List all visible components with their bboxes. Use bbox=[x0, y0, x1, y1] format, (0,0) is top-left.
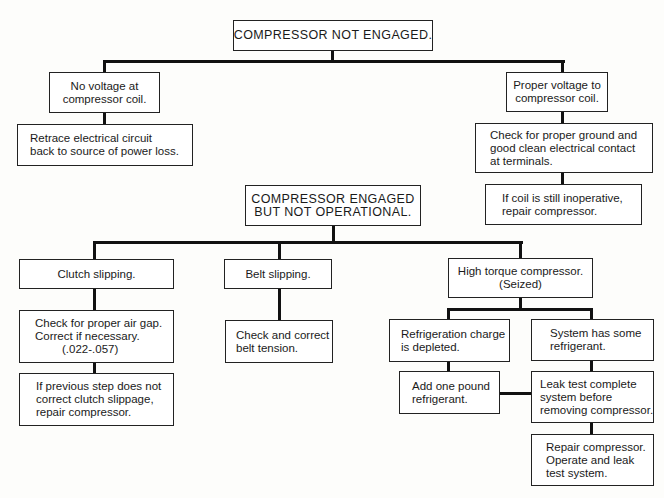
node-label: back to source of power loss. bbox=[30, 145, 192, 158]
node-no-voltage: No voltage at compressor coil. bbox=[49, 72, 160, 113]
node-label: If coil is still inoperative, bbox=[502, 192, 641, 205]
node-label: repair compressor. bbox=[502, 205, 641, 218]
node-label: Check for proper ground and bbox=[490, 129, 652, 142]
node-label: High torque compressor. bbox=[458, 265, 583, 278]
node-label: refrigerant. bbox=[412, 393, 499, 406]
connector bbox=[278, 241, 281, 260]
node-add-refrigerant: Add one pound refrigerant. bbox=[399, 371, 500, 414]
node-label: (Seized) bbox=[499, 278, 542, 291]
node-label: Belt slipping. bbox=[245, 268, 310, 281]
node-label: No voltage at bbox=[71, 80, 139, 93]
connector bbox=[278, 287, 281, 321]
node-label: Clutch slipping. bbox=[58, 268, 136, 281]
node-label: Check for proper air gap. bbox=[35, 317, 173, 330]
connector bbox=[499, 392, 532, 395]
node-proper-voltage: Proper voltage to compressor coil. bbox=[506, 72, 608, 112]
node-label: removing compressor. bbox=[540, 404, 653, 417]
node-label: Leak test complete bbox=[540, 378, 653, 391]
node-label: repair compressor. bbox=[36, 406, 173, 419]
node-label: Operate and leak bbox=[546, 454, 653, 467]
node-check-ground: Check for proper ground and good clean e… bbox=[475, 123, 653, 173]
node-label: BUT NOT OPERATIONAL. bbox=[254, 206, 411, 219]
node-clutch-slipping: Clutch slipping. bbox=[19, 259, 174, 289]
root-compressor-not-engaged: COMPRESSOR NOT ENGAGED. bbox=[233, 20, 433, 51]
node-clutch-repair: If previous step does not correct clutch… bbox=[19, 373, 174, 426]
node-charge-depleted: Refrigeration charge is depleted. bbox=[389, 319, 510, 362]
node-leak-test: Leak test complete system before removin… bbox=[531, 371, 654, 423]
node-label: compressor coil. bbox=[515, 92, 599, 105]
node-retrace-circuit: Retrace electrical circuit back to sourc… bbox=[17, 124, 193, 166]
node-system-has-refrigerant: System has some refrigerant. bbox=[531, 319, 654, 361]
connector bbox=[93, 241, 523, 244]
connector bbox=[93, 287, 96, 311]
node-label: compressor coil. bbox=[63, 93, 147, 106]
node-label: test system. bbox=[546, 467, 653, 480]
node-label: COMPRESSOR NOT ENGAGED. bbox=[234, 29, 433, 42]
node-label: System has some bbox=[550, 327, 653, 340]
node-label: (.022-.057) bbox=[35, 343, 173, 356]
node-label: Add one pound bbox=[412, 380, 499, 393]
node-belt-slipping: Belt slipping. bbox=[224, 259, 332, 289]
node-label: system before bbox=[540, 391, 653, 404]
node-label: Proper voltage to bbox=[513, 79, 601, 92]
connector bbox=[103, 60, 565, 63]
connector bbox=[447, 308, 593, 311]
node-label: Correct if necessary. bbox=[35, 330, 173, 343]
node-label: belt tension. bbox=[236, 342, 332, 355]
node-check-belt-tension: Check and correct belt tension. bbox=[225, 320, 333, 363]
node-label: If previous step does not bbox=[36, 380, 173, 393]
node-label: COMPRESSOR ENGAGED bbox=[251, 193, 414, 206]
node-high-torque-seized: High torque compressor. (Seized) bbox=[448, 258, 593, 298]
node-label: Repair compressor. bbox=[546, 441, 653, 454]
root-compressor-engaged-not-operational: COMPRESSOR ENGAGED BUT NOT OPERATIONAL. bbox=[245, 185, 421, 226]
connector bbox=[93, 241, 96, 260]
node-label: Check and correct bbox=[236, 329, 332, 342]
node-label: correct clutch slippage, bbox=[36, 393, 173, 406]
node-label: refrigerant. bbox=[550, 340, 653, 353]
connector bbox=[519, 241, 522, 259]
node-label: at terminals. bbox=[490, 155, 652, 168]
node-label: Retrace electrical circuit bbox=[30, 132, 192, 145]
node-label: good clean electrical contact bbox=[490, 142, 652, 155]
node-check-air-gap: Check for proper air gap. Correct if nec… bbox=[19, 310, 174, 363]
node-repair-compressor: Repair compressor. Operate and leak test… bbox=[531, 434, 654, 486]
node-label: is depleted. bbox=[401, 341, 509, 354]
node-label: Refrigeration charge bbox=[401, 328, 509, 341]
node-coil-inoperative: If coil is still inoperative, repair com… bbox=[485, 184, 642, 225]
